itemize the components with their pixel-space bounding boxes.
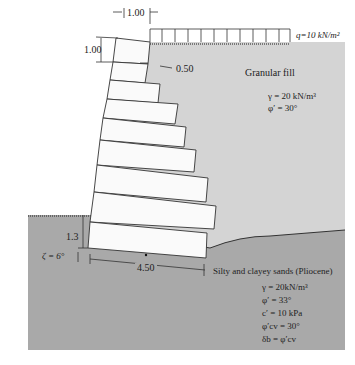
dim-top-offset-label: 1.00 bbox=[127, 8, 145, 18]
block-2 bbox=[110, 62, 148, 83]
foundation-phi: φ′ = 33° bbox=[262, 296, 291, 305]
dim-block-height-label: 1.00 bbox=[84, 45, 102, 55]
dim-base-width-label: 4.50 bbox=[135, 263, 157, 273]
foundation-phi-cv: φ′cv = 30° bbox=[262, 322, 300, 331]
base-tilt-label: ζ = 6° bbox=[42, 252, 64, 261]
surcharge-load bbox=[150, 29, 290, 42]
base-point bbox=[145, 254, 147, 256]
dim-embedment-label: 1.3 bbox=[66, 232, 79, 242]
backfill-phi: φ′ = 30° bbox=[268, 104, 297, 113]
foundation-delta: δb = φ′cv bbox=[262, 335, 296, 344]
foundation-gamma: γ = 20kN/m³ bbox=[262, 283, 308, 292]
block-1 bbox=[113, 38, 150, 64]
surcharge-label: q=10 kN/m² bbox=[296, 31, 340, 40]
backfill-name: Granular fill bbox=[245, 68, 295, 78]
backfill-gamma: γ = 20 kN/m³ bbox=[268, 92, 316, 101]
foundation-c: c′ = 10 kPa bbox=[262, 309, 302, 318]
dim-step-label: 0.50 bbox=[176, 64, 194, 74]
foundation-name: Silty and clayey sands (Pliocene) bbox=[213, 267, 332, 276]
